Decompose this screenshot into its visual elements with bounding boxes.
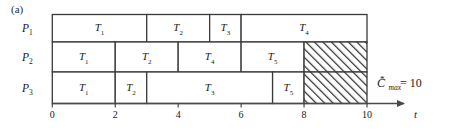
cmax-subscript: max	[389, 83, 402, 92]
idle-block	[304, 42, 367, 72]
task-label: T2	[173, 22, 183, 37]
cmax-equals: = 10	[400, 76, 422, 90]
axis-x-name: t	[414, 108, 417, 120]
row-label-letter: P	[22, 51, 29, 63]
task-index: 3	[227, 29, 231, 37]
task-label: T5	[268, 50, 278, 65]
task-index: 1	[85, 88, 89, 96]
cmax-star: *	[380, 74, 385, 84]
axis-tick-label: 2	[113, 109, 118, 120]
row-label-letter: P	[22, 22, 29, 34]
axis-tick-label: 8	[302, 109, 307, 120]
task-index: 2	[179, 29, 183, 37]
row-label-p3: P3	[22, 82, 33, 97]
task-label: T3	[205, 81, 215, 96]
task-label: T1	[95, 22, 105, 37]
task-label: T2	[142, 50, 152, 65]
task-label: T1	[79, 50, 89, 65]
task-index: 2	[132, 88, 136, 96]
row-label-p2: P2	[22, 51, 33, 66]
task-index: 4	[305, 29, 309, 37]
task-index: 1	[85, 58, 89, 66]
task-label: T1	[79, 81, 89, 96]
task-index: 5	[274, 58, 278, 66]
task-label: T3	[221, 22, 231, 37]
cmax-annotation: C*max= 10	[377, 76, 422, 91]
task-label: T2	[126, 81, 136, 96]
task-label: T5	[284, 81, 294, 96]
task-label: T4	[299, 22, 309, 37]
task-label: T4	[205, 50, 215, 65]
row-label-index: 2	[29, 57, 33, 66]
task-index: 4	[211, 58, 215, 66]
axis-tick-label: 4	[176, 109, 181, 120]
row-label-p1: P1	[22, 22, 33, 37]
axis-tick-label: 0	[50, 109, 55, 120]
task-index: 2	[148, 58, 152, 66]
row-label-index: 1	[29, 28, 33, 37]
panel-label: (a)	[11, 3, 23, 15]
idle-block	[304, 72, 367, 104]
task-index: 5	[290, 88, 294, 96]
row-label-letter: P	[22, 82, 29, 94]
axis-tick-label: 6	[239, 109, 244, 120]
axis-tick-label: 10	[362, 109, 372, 120]
task-index: 1	[101, 29, 105, 37]
task-index: 3	[211, 88, 215, 96]
row-label-index: 3	[29, 88, 33, 97]
